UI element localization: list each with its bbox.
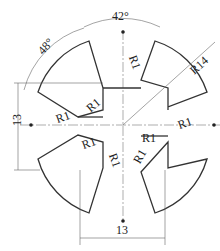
fillet-label: R1 [130, 147, 149, 166]
fillet-label: R1 [142, 131, 156, 145]
fillet-label: R1 [126, 53, 144, 71]
drawing-canvas: 42° 48° R14 13 13 R1 R1 R1 R1 R1 R1 R1 R… [0, 0, 220, 251]
fillet-label: R1 [106, 151, 124, 169]
dim-arc-48 [24, 28, 84, 90]
angle-48-label: 48° [35, 35, 57, 57]
height-13-label: 13 [10, 114, 24, 126]
width-13-label: 13 [116, 223, 128, 237]
fillet-label: R1 [84, 95, 104, 115]
angle-42-label: 42° [112, 9, 129, 23]
r14-label: R14 [187, 53, 211, 77]
fillet-label: R1 [176, 114, 194, 132]
sector-lower-right [141, 142, 207, 213]
